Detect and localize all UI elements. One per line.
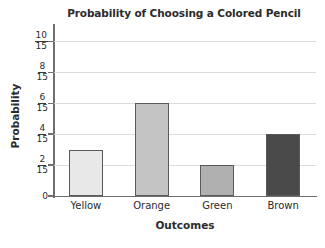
y-axis-tick xyxy=(48,41,54,43)
y-axis-tick xyxy=(48,133,54,135)
x-axis-title: Outcomes xyxy=(53,219,317,231)
bar-yellow xyxy=(69,150,103,196)
fraction-denominator: 15 xyxy=(37,135,48,145)
y-tick-label: 0 xyxy=(42,192,48,201)
plot-area: 02154156158151015 xyxy=(53,26,316,196)
bar-orange xyxy=(135,103,169,196)
bar-green xyxy=(200,165,234,196)
x-tick-label: Brown xyxy=(267,200,298,211)
gridline xyxy=(53,72,316,73)
bar-chart: Probability of Choosing a Colored Pencil… xyxy=(0,0,325,248)
y-axis-tick xyxy=(48,103,54,105)
fraction-numerator: 2 xyxy=(38,155,46,166)
y-tick-label: 215 xyxy=(37,155,48,175)
x-tick-label: Orange xyxy=(133,200,170,211)
chart-title: Probability of Choosing a Colored Pencil xyxy=(48,7,320,19)
y-axis-tick xyxy=(48,164,54,166)
gridline xyxy=(53,103,316,104)
fraction-denominator: 15 xyxy=(37,104,48,114)
y-tick-label: 815 xyxy=(37,62,48,82)
x-tick-label: Green xyxy=(202,200,232,211)
y-tick-label: 615 xyxy=(37,93,48,113)
fraction-denominator: 15 xyxy=(37,166,48,176)
bar-brown xyxy=(266,134,300,196)
fraction-numerator: 6 xyxy=(38,93,46,104)
y-axis-tick xyxy=(48,72,54,74)
fraction-numerator: 10 xyxy=(35,31,48,42)
y-axis-tick xyxy=(48,195,54,197)
x-tick-label: Yellow xyxy=(70,200,101,211)
fraction-numerator: 8 xyxy=(38,62,46,73)
y-tick-label: 415 xyxy=(37,124,48,144)
y-tick-label: 1015 xyxy=(35,31,48,51)
fraction-numerator: 4 xyxy=(38,124,46,135)
fraction-denominator: 15 xyxy=(37,73,48,83)
gridline xyxy=(53,41,316,42)
y-axis-title: Probability xyxy=(9,66,21,166)
fraction-denominator: 15 xyxy=(36,42,47,52)
